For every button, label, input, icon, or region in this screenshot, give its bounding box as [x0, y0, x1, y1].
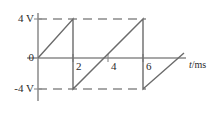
x-axis-title: t/ms: [189, 60, 206, 70]
sawtooth-trace: [38, 19, 184, 89]
waveform-figure: 4 V 0 -4 V 2 4 6 t/ms: [0, 0, 221, 114]
y-axis-tick-label-zero: 0: [2, 52, 34, 63]
x-axis-tick-label-2: 2: [76, 61, 82, 72]
y-axis-tick-label-neg4v: -4 V: [0, 83, 34, 94]
x-axis-unit: /ms: [192, 59, 206, 70]
x-axis-tick-label-6: 6: [146, 61, 152, 72]
x-axis-tick-label-4: 4: [111, 61, 117, 72]
y-axis-tick-label-4v: 4 V: [2, 13, 34, 24]
